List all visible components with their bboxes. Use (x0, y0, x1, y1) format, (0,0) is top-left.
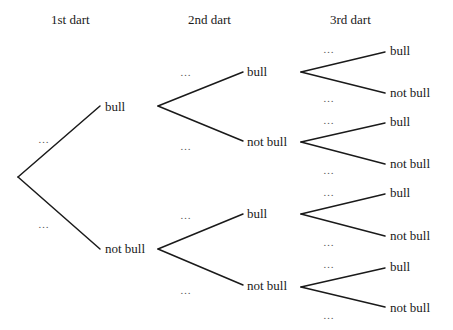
header-2nd-dart: 2nd dart (188, 13, 231, 27)
prob-blank-2-notbull-bull: … (180, 210, 191, 220)
prob-blank-3-b-notbull: … (323, 165, 334, 175)
branch-2-notbull-bull (158, 214, 243, 249)
branch-1-not-bull (18, 177, 100, 249)
node-3-b-bull: bull (390, 115, 410, 129)
branch-3-c-notbull (301, 214, 385, 236)
prob-blank-3-c-notbull: … (323, 237, 334, 247)
branch-2-bull-notbull (158, 106, 243, 141)
node-2-bull-notbull: not bull (247, 135, 287, 149)
header-3rd-dart: 3rd dart (330, 13, 371, 27)
branch-3-d-notbull (301, 287, 385, 307)
node-2-notbull-bull: bull (247, 207, 267, 221)
branch-1-bull (18, 106, 100, 177)
node-1-bull: bull (105, 100, 125, 114)
node-3-d-notbull: not bull (390, 301, 430, 315)
branch-3-d-bull (301, 268, 385, 287)
node-2-bull-bull: bull (247, 65, 267, 79)
branch-3-b-bull (301, 123, 385, 142)
branch-2-bull-bull (158, 72, 243, 106)
branch-3-a-notbull (301, 72, 385, 93)
node-3-b-notbull: not bull (390, 157, 430, 171)
prob-blank-3-d-bull: … (323, 259, 334, 269)
branch-2-notbull-notbull (158, 249, 243, 285)
prob-blank-3-d-notbull: … (323, 310, 334, 320)
header-1st-dart: 1st dart (51, 13, 90, 27)
branch-3-c-bull (301, 194, 385, 214)
prob-blank-3-b-bull: … (323, 115, 334, 125)
branch-3-b-notbull (301, 142, 385, 164)
node-3-d-bull: bull (390, 260, 410, 274)
probability-tree-diagram: 1st dart 2nd dart 3rd dart … … bull not … (0, 0, 453, 330)
node-3-a-notbull: not bull (390, 86, 430, 100)
node-2-notbull-notbull: not bull (247, 279, 287, 293)
prob-blank-2-bull-bull: … (180, 67, 191, 77)
node-3-c-bull: bull (390, 186, 410, 200)
prob-blank-2-bull-notbull: … (180, 141, 191, 151)
node-1-not-bull: not bull (105, 242, 145, 256)
prob-blank-2-notbull-notbull: … (180, 285, 191, 295)
branch-3-a-bull (301, 52, 385, 72)
prob-blank-1-bull: … (38, 134, 49, 144)
prob-blank-3-a-bull: … (323, 44, 334, 54)
tree-branches (0, 0, 453, 330)
prob-blank-1-not-bull: … (38, 219, 49, 229)
prob-blank-3-c-bull: … (323, 187, 334, 197)
node-3-c-notbull: not bull (390, 229, 430, 243)
prob-blank-3-a-notbull: … (323, 93, 334, 103)
node-3-a-bull: bull (390, 44, 410, 58)
